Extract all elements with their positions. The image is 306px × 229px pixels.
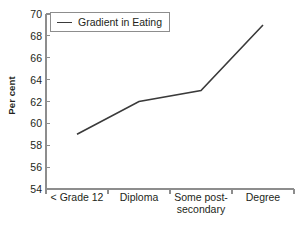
x-axis-tick-labels: < Grade 12DiplomaSome post- secondaryDeg…: [0, 192, 306, 226]
chart-legend: Gradient in Eating: [50, 12, 170, 32]
line-chart: Per cent 545658606264666870 < Grade 12Di…: [0, 0, 306, 229]
legend-line-swatch-icon: [57, 22, 72, 23]
x-axis-tick-label: < Grade 12: [46, 192, 108, 204]
legend-entry-label: Gradient in Eating: [78, 17, 162, 28]
tick-marks: [46, 14, 294, 194]
x-axis-tick-label: Some post- secondary: [170, 192, 232, 215]
x-axis-tick-label: Diploma: [108, 192, 170, 204]
data-series-group: [77, 25, 263, 134]
axis-lines: [46, 14, 294, 190]
x-axis-tick-label: Degree: [232, 192, 294, 204]
